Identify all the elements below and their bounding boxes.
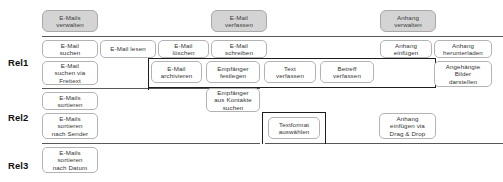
story-email-archivieren[interactable]: E-Mail archivieren — [151, 61, 202, 83]
story-emails-sortieren-nach-datum[interactable]: E-Mails sortieren nach Datum — [42, 147, 98, 173]
story-emails-sortieren[interactable]: E-Mails sortieren — [42, 92, 98, 110]
story-emails-sortieren-nach-sender[interactable]: E-Mails sortieren nach Sender — [42, 113, 98, 139]
story-email-suchen-via-freitext[interactable]: E-Mail suchen via Freitext — [42, 61, 98, 85]
group-outline-rel1-left-edge — [148, 58, 149, 88]
story-map-canvas: Rel1 Rel2 Rel3 E-Mails verwalten E-Mail … — [0, 0, 503, 182]
story-anhang-herunterladen[interactable]: Anhang herunterladen — [434, 40, 492, 58]
release-separator-rel2-rel3-right — [265, 143, 503, 144]
release-label-rel3: Rel3 — [8, 160, 28, 171]
release-separator-rel2-rel3 — [42, 143, 260, 144]
group-outline-rel1-top-edge — [148, 58, 436, 59]
epic-email-verfassen[interactable]: E-Mail verfassen — [211, 10, 267, 32]
release-separator-rel1-top — [42, 36, 503, 37]
release-label-rel1: Rel1 — [8, 57, 28, 68]
release-label-rel2: Rel2 — [8, 112, 28, 123]
story-angehaengte-bilder-darstellen[interactable]: Angehängte Bilder darstellen — [434, 61, 492, 87]
story-text-verfassen[interactable]: Text verfassen — [264, 61, 316, 83]
epic-anhang-verwalten[interactable]: Anhang verwalten — [380, 10, 436, 32]
story-empfaenger-aus-kontakte-suchen[interactable]: Empfänger aus Kontakte suchen — [206, 88, 260, 112]
story-textformat-auswaehlen[interactable]: Textformat auswählen — [268, 117, 320, 139]
story-anhang-einfuegen[interactable]: Anhang einfügen — [380, 40, 432, 58]
story-empfaenger-festlegen[interactable]: Empfänger festlegen — [206, 61, 260, 83]
group-outline-rel1-stub — [148, 87, 149, 90]
group-outline-rel1-bottom-edge — [148, 87, 436, 88]
story-anhang-einfuegen-drag-drop[interactable]: Anhang einfügen via Drag & Drop — [379, 113, 436, 139]
story-email-lesen[interactable]: E-Mail lesen — [100, 40, 156, 58]
group-outline-rel2-top-edge — [262, 112, 326, 113]
group-outline-rel2-left-edge — [262, 112, 263, 144]
story-betreff-verfassen[interactable]: Betreff verfassen — [320, 61, 374, 83]
story-email-suchen[interactable]: E-Mail suchen — [42, 40, 98, 58]
story-email-loeschen[interactable]: E-Mail löschen — [158, 40, 209, 58]
epic-emails-verwalten[interactable]: E-Mails verwalten — [42, 10, 98, 32]
group-outline-rel2-right-edge — [325, 112, 326, 144]
story-email-schreiben[interactable]: E-Mail schreiben — [211, 40, 267, 58]
